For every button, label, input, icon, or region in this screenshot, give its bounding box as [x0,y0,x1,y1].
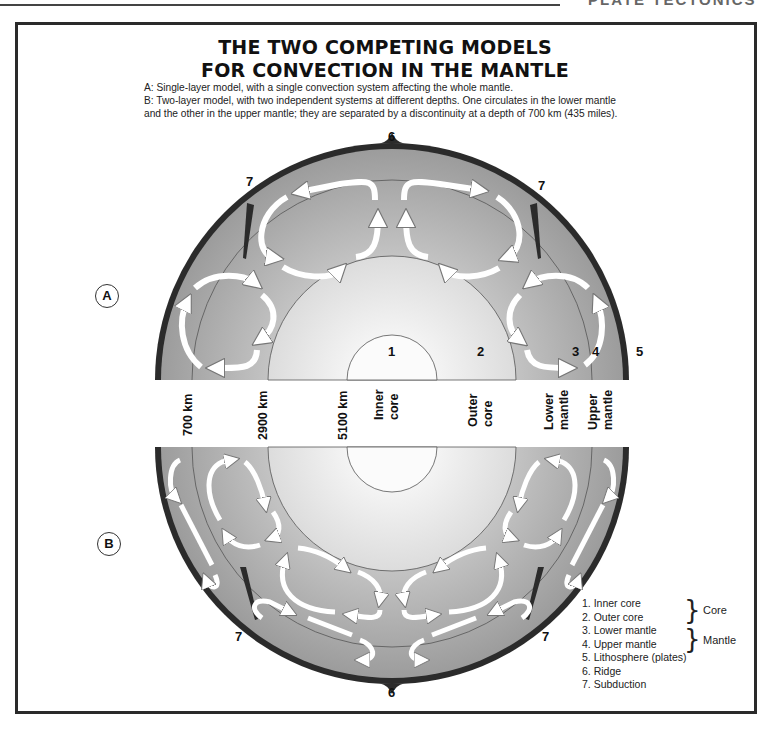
callout-outer-core: 2 [477,344,484,359]
depth-label-inner-line2: core [387,394,401,420]
model-b-hemisphere [155,447,629,694]
callout-subduction-a-right: 7 [538,178,545,193]
depth-label-upper-mantle-line1: Upper [586,394,600,430]
callout-subduction-a-left: 7 [246,174,253,189]
callout-lithosphere: 5 [636,344,643,359]
callout-lower-mantle: 3 [572,344,579,359]
model-a-badge: A [95,284,119,308]
depth-label-outer-line1: Outer [466,394,480,427]
legend-item-upper-mantle: 4. Upper mantle [582,638,686,652]
callout-inner-core: 1 [388,344,395,359]
depth-label-5100km: 5100 km [336,391,350,440]
depth-band: 700 km 2900 km 5100 km Inner core Outer … [181,389,615,440]
legend-item-ridge: 6. Ridge [582,665,686,679]
legend-item-lithosphere: 5. Lithosphere (plates) [582,651,686,665]
depth-label-outer-line2: core [481,401,495,427]
model-a-hemisphere [155,133,629,380]
depth-label-lower-mantle-line2: mantle [557,390,571,430]
legend-group-mantle: Mantle [703,634,736,646]
legend-item-subduction: 7. Subduction [582,678,686,692]
callout-subduction-b-left: 7 [235,629,242,644]
callout-upper-mantle: 4 [592,344,600,359]
depth-label-upper-mantle-line2: mantle [601,390,615,430]
legend-item-outer-core: 2. Outer core [582,611,686,625]
depth-label-2900km: 2900 km [256,391,270,440]
depth-label-700km: 700 km [181,394,195,436]
mantle-group-brace: } [684,626,701,652]
model-b-badge: B [97,532,121,556]
callout-ridge-b: 6 [388,685,395,700]
depth-label-inner-line1: Inner [372,389,386,420]
depth-label-lower-mantle-line1: Lower [542,393,556,430]
core-group-brace: } [684,597,701,623]
callout-ridge-a: 6 [388,129,395,144]
legend-item-lower-mantle: 3. Lower mantle [582,624,686,638]
legend-item-inner-core: 1. Inner core [582,597,686,611]
legend: 1. Inner core 2. Outer core 3. Lower man… [582,597,686,692]
callout-subduction-b-right: 7 [542,629,549,644]
legend-group-core: Core [703,604,727,616]
